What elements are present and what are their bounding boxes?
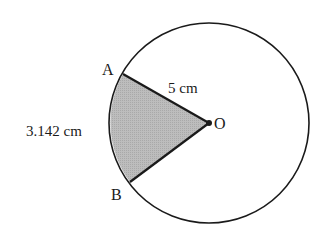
point-label-b: B: [111, 186, 122, 203]
arc-length-label: 3.142 cm: [26, 123, 82, 139]
center-label: O: [214, 115, 226, 132]
center-point: [206, 120, 212, 126]
radius-label: 5 cm: [168, 80, 198, 96]
point-label-a: A: [102, 61, 114, 78]
sector-diagram: A B O 5 cm 3.142 cm: [0, 0, 324, 234]
